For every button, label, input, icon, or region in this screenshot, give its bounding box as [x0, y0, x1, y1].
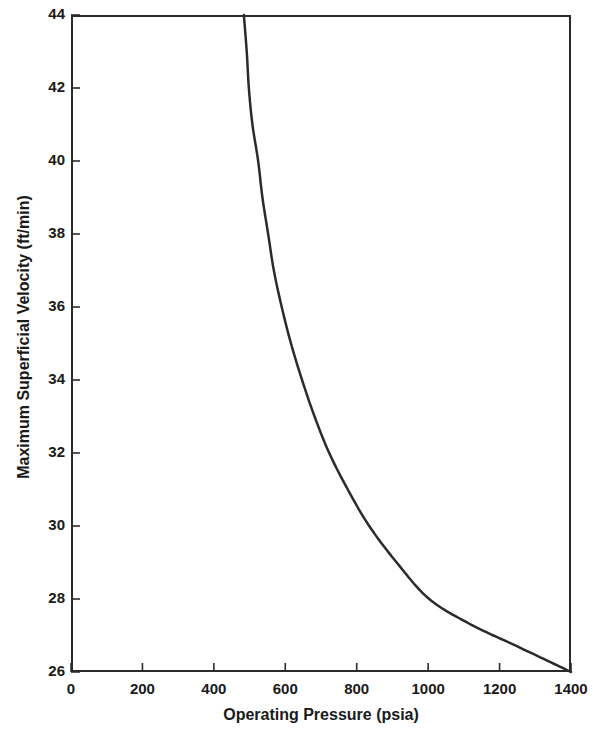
- x-tick-label-text: 200: [130, 680, 155, 697]
- x-tick-label-text: 1200: [483, 680, 516, 697]
- x-tick-label-text: 800: [344, 680, 369, 697]
- y-tick-label-text: 44: [48, 5, 71, 22]
- y-tick-label-text: 32: [48, 443, 71, 460]
- y-tick-label-text: 30: [48, 516, 71, 533]
- y-tick-label-text: 28: [48, 589, 71, 606]
- y-tick-label-text: 40: [48, 151, 71, 168]
- x-tick-label-text: 400: [201, 680, 226, 697]
- x-tick-label-text: 1000: [411, 680, 444, 697]
- y-tick-label-text: 34: [48, 370, 71, 387]
- y-tick-label-text: 26: [48, 662, 71, 679]
- chart-figure: 26283032343638404244 0200400600800100012…: [0, 0, 593, 734]
- x-axis-title: Operating Pressure (psia): [71, 706, 571, 724]
- x-tick-label-text: 1400: [554, 680, 587, 697]
- plot-frame: [71, 15, 571, 672]
- y-tick-label-text: 42: [48, 78, 71, 95]
- y-tick-label-text: 36: [48, 297, 71, 314]
- y-axis-title: Maximum Superficial Velocity (ft/min): [15, 9, 33, 666]
- y-tick-label-text: 38: [48, 224, 71, 241]
- x-tick-label-text: 0: [67, 680, 75, 697]
- x-tick-label-text: 600: [273, 680, 298, 697]
